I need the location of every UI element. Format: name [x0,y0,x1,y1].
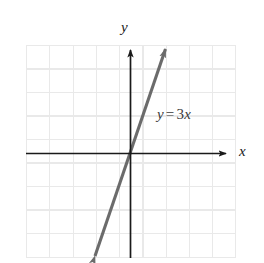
graph-figure: y x y=3x [0,0,264,263]
y-axis-label: y [121,20,128,35]
coordinate-plane [0,0,264,263]
equation-annotation: y=3x [157,106,191,123]
plot-background [0,0,264,263]
equation-operator: = [164,106,177,122]
equation-variable: x [184,106,191,122]
x-axis-label: x [239,144,246,159]
equation-lhs: y [157,106,164,122]
